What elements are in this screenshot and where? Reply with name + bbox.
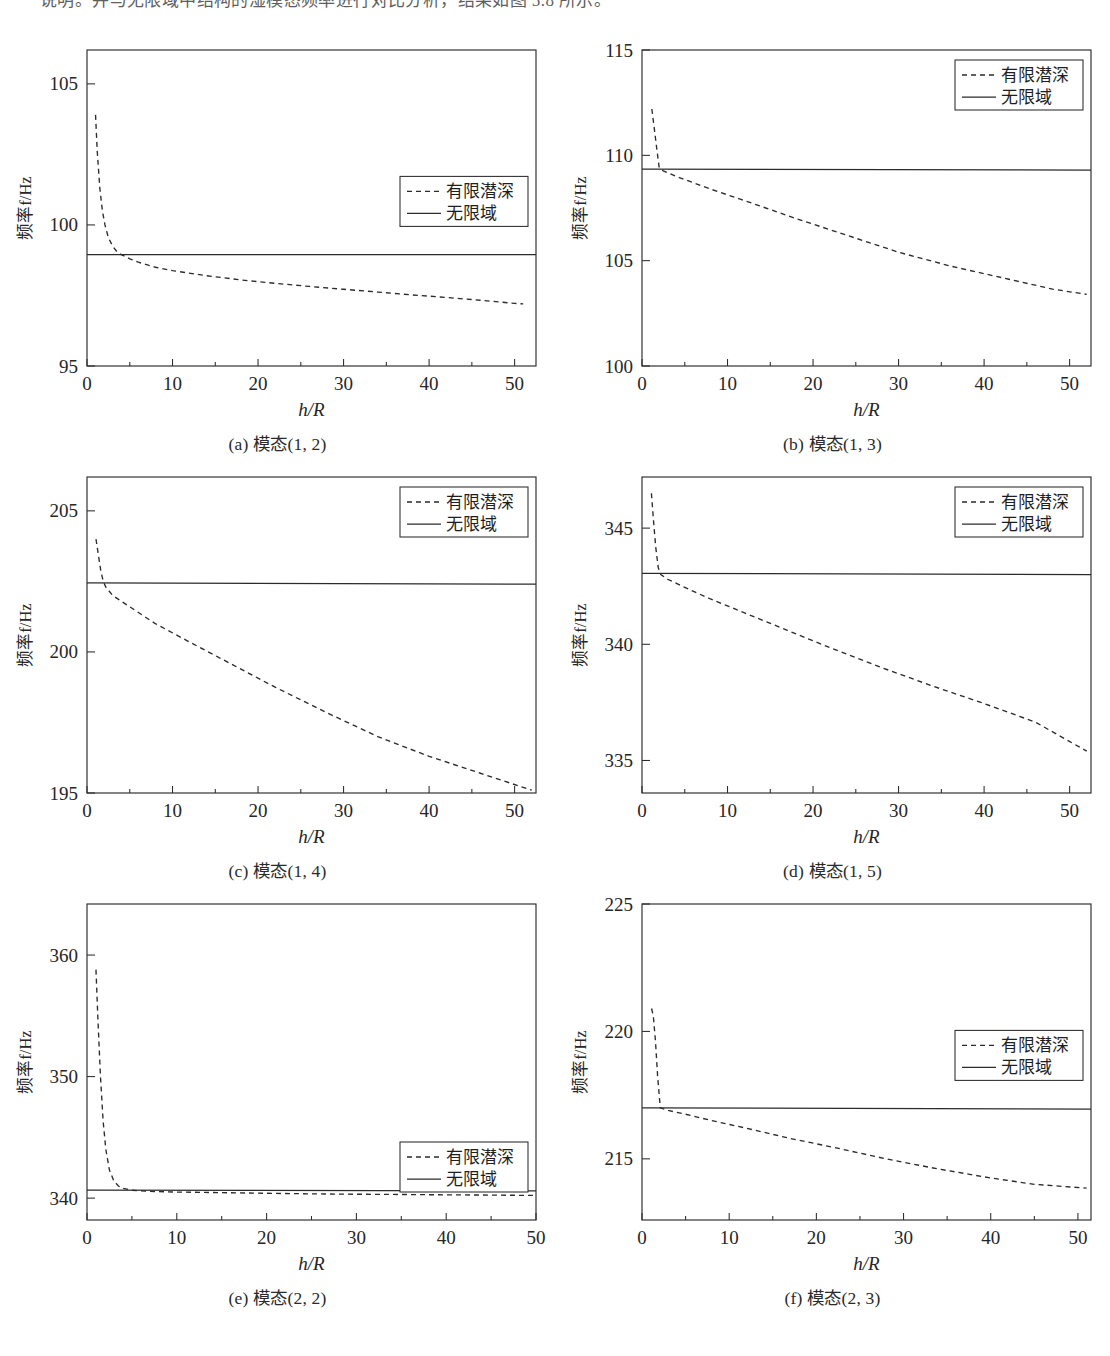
y-tick-label: 340 — [605, 634, 634, 655]
y-tick-label: 335 — [605, 750, 634, 771]
x-tick-label: 20 — [804, 800, 823, 821]
y-tick-label: 105 — [50, 73, 79, 94]
legend: 有限潜深无限域 — [955, 487, 1083, 537]
x-tick-label: 0 — [637, 1227, 647, 1248]
series-infinite-domain — [642, 1108, 1091, 1109]
x-tick-label: 50 — [1060, 800, 1079, 821]
legend-label-finite-depth: 有限潜深 — [446, 1148, 514, 1167]
figure-row-3: 01020304050340350360h/R频率f/Hz有限潜深无限域 (e)… — [0, 882, 1110, 1309]
series-finite-depth — [652, 109, 1087, 294]
chart-e: 01020304050340350360h/R频率f/Hz有限潜深无限域 — [5, 882, 550, 1282]
y-tick-label: 105 — [605, 250, 634, 271]
chart-d: 01020304050335340345h/R频率f/Hz有限潜深无限域 — [560, 455, 1105, 855]
x-tick-label: 50 — [1068, 1227, 1087, 1248]
x-tick-label: 20 — [249, 373, 268, 394]
x-tick-label: 10 — [163, 800, 182, 821]
x-tick-label: 20 — [249, 800, 268, 821]
x-axis-title: h/R — [853, 1253, 880, 1274]
x-tick-label: 0 — [82, 373, 92, 394]
legend-label-infinite-domain: 无限域 — [446, 515, 497, 534]
y-axis-title: 频率f/Hz — [571, 603, 590, 666]
y-tick-label: 100 — [605, 356, 634, 377]
x-tick-label: 30 — [889, 373, 908, 394]
figure-cell-f: 01020304050215220225h/R频率f/Hz有限潜深无限域 (f)… — [555, 882, 1110, 1309]
x-tick-label: 10 — [167, 1227, 186, 1248]
series-finite-depth — [96, 539, 532, 790]
x-tick-label: 20 — [804, 373, 823, 394]
legend-label-finite-depth: 有限潜深 — [1001, 66, 1069, 85]
legend-label-infinite-domain: 无限域 — [446, 204, 497, 223]
y-tick-label: 200 — [50, 641, 79, 662]
x-tick-label: 20 — [257, 1227, 276, 1248]
y-axis-title: 频率f/Hz — [571, 1030, 590, 1093]
series-group — [87, 539, 536, 790]
y-tick-label: 195 — [50, 783, 79, 804]
legend-label-infinite-domain: 无限域 — [1001, 1058, 1052, 1077]
legend: 有限潜深无限域 — [400, 1142, 528, 1192]
x-tick-label: 10 — [718, 373, 737, 394]
figure-row-1: 0102030405095100105h/R频率f/Hz有限潜深无限域 (a) … — [0, 28, 1110, 455]
legend-label-finite-depth: 有限潜深 — [1001, 1036, 1069, 1055]
x-tick-label: 40 — [975, 373, 994, 394]
series-infinite-domain — [642, 573, 1091, 574]
y-tick-label: 95 — [59, 356, 78, 377]
x-tick-label: 30 — [334, 373, 353, 394]
x-tick-label: 0 — [637, 800, 647, 821]
figure-cell-b: 01020304050100105110115h/R频率f/Hz有限潜深无限域 … — [555, 28, 1110, 455]
figure-cell-a: 0102030405095100105h/R频率f/Hz有限潜深无限域 (a) … — [0, 28, 555, 455]
x-tick-label: 30 — [894, 1227, 913, 1248]
y-axis-title: 频率f/Hz — [571, 176, 590, 239]
y-axis-title: 频率f/Hz — [16, 1030, 35, 1093]
x-tick-label: 40 — [437, 1227, 456, 1248]
x-axis-title: h/R — [853, 399, 880, 420]
series-infinite-domain — [87, 583, 536, 584]
series-infinite-domain — [642, 169, 1091, 170]
x-tick-label: 0 — [82, 800, 92, 821]
x-tick-label: 50 — [1060, 373, 1079, 394]
x-tick-label: 30 — [889, 800, 908, 821]
y-tick-label: 115 — [605, 40, 633, 61]
caption-b: (b) 模态(1, 3) — [555, 430, 1110, 455]
y-tick-label: 360 — [50, 945, 79, 966]
y-tick-label: 345 — [605, 518, 634, 539]
y-axis-title: 频率f/Hz — [16, 603, 35, 666]
chart-b: 01020304050100105110115h/R频率f/Hz有限潜深无限域 — [560, 28, 1105, 428]
legend: 有限潜深无限域 — [400, 487, 528, 537]
legend-label-finite-depth: 有限潜深 — [446, 493, 514, 512]
chart-a: 0102030405095100105h/R频率f/Hz有限潜深无限域 — [5, 28, 550, 428]
x-tick-label: 50 — [505, 373, 524, 394]
legend-label-infinite-domain: 无限域 — [1001, 88, 1052, 107]
caption-d: (d) 模态(1, 5) — [555, 857, 1110, 882]
x-tick-label: 50 — [505, 800, 524, 821]
x-axis-title: h/R — [298, 826, 325, 847]
x-axis-title: h/R — [298, 1253, 325, 1274]
x-tick-label: 40 — [975, 800, 994, 821]
caption-f: (f) 模态(2, 3) — [555, 1284, 1110, 1309]
chart-c: 01020304050195200205h/R频率f/Hz有限潜深无限域 — [5, 455, 550, 855]
legend: 有限潜深无限域 — [955, 60, 1083, 110]
legend-label-infinite-domain: 无限域 — [1001, 515, 1052, 534]
y-axis-title: 频率f/Hz — [16, 176, 35, 239]
x-tick-label: 30 — [334, 800, 353, 821]
y-tick-label: 340 — [50, 1188, 79, 1209]
x-tick-label: 10 — [720, 1227, 739, 1248]
figure-cell-e: 01020304050340350360h/R频率f/Hz有限潜深无限域 (e)… — [0, 882, 555, 1309]
x-axis-title: h/R — [298, 399, 325, 420]
y-tick-label: 350 — [50, 1066, 79, 1087]
y-tick-label: 225 — [605, 894, 634, 915]
x-tick-label: 40 — [981, 1227, 1000, 1248]
caption-e: (e) 模态(2, 2) — [0, 1284, 555, 1309]
y-tick-label: 220 — [605, 1021, 634, 1042]
figure-cell-c: 01020304050195200205h/R频率f/Hz有限潜深无限域 (c)… — [0, 455, 555, 882]
y-tick-label: 205 — [50, 500, 79, 521]
y-tick-label: 100 — [50, 214, 79, 235]
legend-label-finite-depth: 有限潜深 — [1001, 493, 1069, 512]
x-tick-label: 40 — [420, 800, 439, 821]
figure-cell-d: 01020304050335340345h/R频率f/Hz有限潜深无限域 (d)… — [555, 455, 1110, 882]
y-tick-label: 110 — [605, 145, 633, 166]
figure-grid: 0102030405095100105h/R频率f/Hz有限潜深无限域 (a) … — [0, 28, 1110, 1309]
legend: 有限潜深无限域 — [955, 1030, 1083, 1080]
chart-f: 01020304050215220225h/R频率f/Hz有限潜深无限域 — [560, 882, 1105, 1282]
x-tick-label: 30 — [347, 1227, 366, 1248]
y-tick-label: 215 — [605, 1148, 634, 1169]
